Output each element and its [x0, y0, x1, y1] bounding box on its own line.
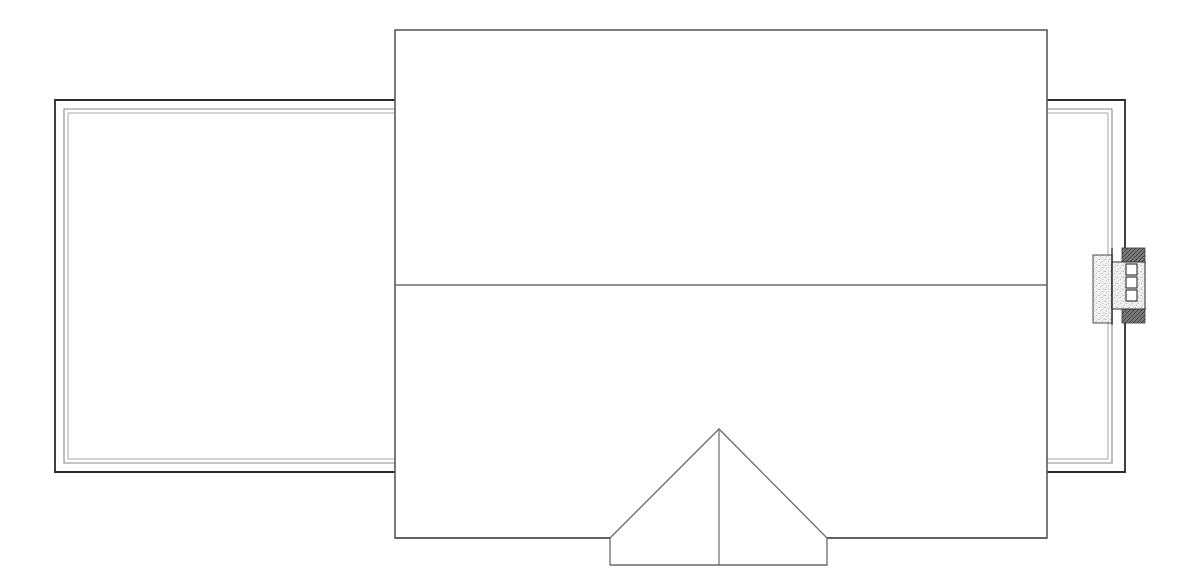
roof-plan-drawing	[0, 0, 1200, 588]
wall-detail-square-3	[1126, 290, 1137, 301]
wall-detail-left-block	[1093, 255, 1112, 323]
left-deck-group	[55, 100, 396, 472]
drawing-sheet	[0, 0, 1200, 588]
wall-detail-square-2	[1126, 277, 1137, 288]
wall-detail-square-1	[1126, 264, 1137, 275]
left-deck-outer-line	[55, 100, 396, 472]
